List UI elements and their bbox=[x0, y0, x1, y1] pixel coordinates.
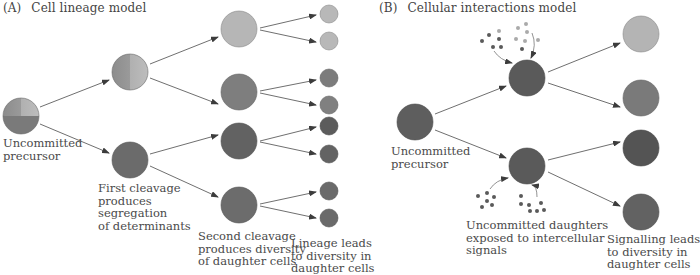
panel-b-letter: (B) bbox=[379, 1, 397, 15]
first-cleavage-cell-upper bbox=[112, 54, 148, 90]
second-cleavage-cell-3 bbox=[221, 123, 257, 159]
panel-b-title-text: Cellular interactions model bbox=[407, 1, 576, 15]
daughter-cell-a6 bbox=[320, 145, 338, 163]
signalled-cell-2 bbox=[623, 80, 659, 116]
label-second-cleavage: Second cleavage produces diversity of da… bbox=[198, 230, 306, 268]
signalled-cell-1 bbox=[623, 16, 659, 52]
second-cleavage-cell-4 bbox=[221, 187, 257, 223]
daughter-cell-a4 bbox=[320, 96, 338, 114]
signal-molecules-bottom bbox=[476, 178, 546, 213]
label-uncommitted-daughters: Uncommitted daughters exposed to interce… bbox=[466, 219, 608, 257]
second-cleavage-cell-2 bbox=[221, 74, 257, 110]
daughter-cell-a2 bbox=[320, 32, 338, 50]
panel-b-title: (B)Cellular interactions model bbox=[379, 1, 576, 15]
signalled-cell-4 bbox=[623, 194, 659, 230]
daughter-cell-a7 bbox=[320, 182, 338, 200]
uncommitted-daughter-lower bbox=[509, 148, 545, 184]
precursor-cell-b bbox=[397, 104, 433, 140]
panel-b-diagram bbox=[397, 16, 659, 230]
daughter-cell-a3 bbox=[320, 69, 338, 87]
label-signalling-result: Signalling leads to diversity in daughte… bbox=[607, 233, 700, 271]
label-lineage-result: Lineage leads to diversity in daughter c… bbox=[291, 237, 374, 275]
second-cleavage-cell-1 bbox=[221, 11, 257, 47]
signal-molecules-top bbox=[480, 22, 540, 63]
uncommitted-daughter-upper bbox=[509, 60, 545, 96]
panel-a-title: (A)Cell lineage model bbox=[3, 1, 146, 15]
precursor-cell-a bbox=[3, 98, 39, 134]
signalled-cell-3 bbox=[623, 130, 659, 166]
first-cleavage-cell-lower bbox=[112, 142, 148, 178]
daughter-cell-a8 bbox=[320, 209, 338, 227]
panel-a-letter: (A) bbox=[3, 1, 21, 15]
label-first-cleavage: First cleavage produces segregation of d… bbox=[98, 182, 191, 232]
label-uncommitted-precursor-b: Uncommitted precursor bbox=[391, 145, 470, 170]
daughter-cell-a5 bbox=[320, 117, 338, 135]
panel-a-title-text: Cell lineage model bbox=[31, 1, 146, 15]
label-uncommitted-precursor-a: Uncommitted precursor bbox=[3, 137, 82, 162]
daughter-cell-a1 bbox=[320, 5, 338, 23]
